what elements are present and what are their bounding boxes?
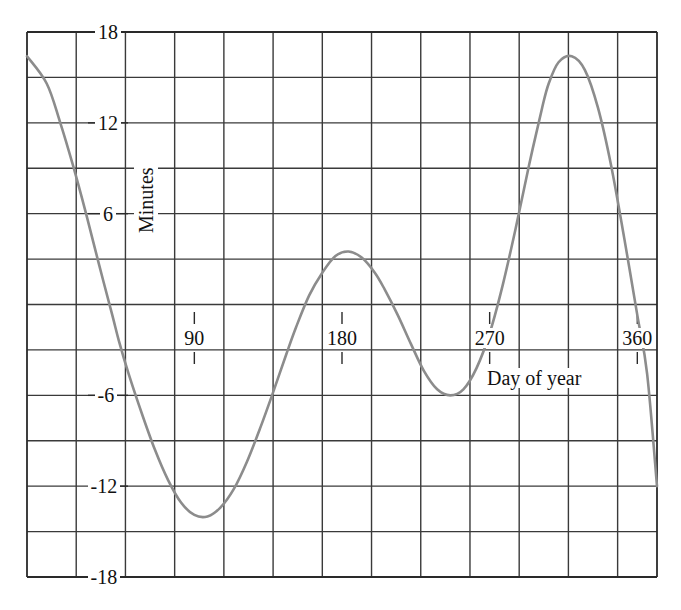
plot-area — [0, 0, 681, 610]
x-tick-label-90: 90 — [181, 328, 207, 348]
equation-of-time-chart: 18 12 6 -6 -12 -18 90 180 270 360 Minute… — [0, 0, 681, 610]
gridlines — [27, 32, 657, 577]
x-tick-label-360: 360 — [619, 328, 655, 348]
y-axis-title: Minutes — [134, 164, 158, 236]
y-tick-label-minus-18: -18 — [88, 567, 121, 587]
x-tick-label-270: 270 — [472, 328, 508, 348]
y-tick-label-minus-6: -6 — [95, 385, 118, 405]
y-tick-label-6: 6 — [100, 204, 116, 224]
equation-of-time-curve — [27, 56, 657, 517]
y-tick-label-12: 12 — [95, 113, 121, 133]
x-axis-title: Day of year — [483, 368, 585, 388]
y-tick-label-18: 18 — [95, 22, 121, 42]
y-tick-label-minus-12: -12 — [88, 476, 121, 496]
x-tick-label-180: 180 — [324, 328, 360, 348]
